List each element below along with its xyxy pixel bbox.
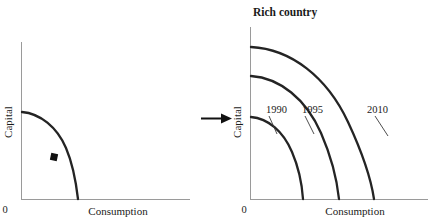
- right-x-axis-label: Consumption: [325, 205, 385, 217]
- ppf-curve-1995: [251, 76, 339, 199]
- left-panel: Capital Consumption 0: [2, 42, 190, 217]
- year-label-2010: 2010: [367, 104, 388, 115]
- left-y-axis-label: Capital: [2, 106, 14, 138]
- year-label-1995: 1995: [302, 104, 323, 115]
- transition-arrow-icon: [201, 114, 232, 124]
- left-x-axis-label: Consumption: [88, 205, 148, 217]
- right-y-axis-label: Capital: [231, 106, 243, 138]
- chosen-point-marker: [50, 153, 58, 161]
- ppf-curve-1990: [251, 117, 303, 199]
- year-label-1990: 1990: [266, 104, 287, 115]
- leader-line-2010: [375, 116, 388, 136]
- panel-title: Rich country: [253, 6, 317, 19]
- right-panel: Rich country 1990 1995 2010 Capital Cons…: [231, 6, 428, 217]
- right-origin-label: 0: [241, 204, 246, 215]
- figure-root: Capital Consumption 0 Rich country 19: [0, 0, 440, 222]
- left-origin-label: 0: [2, 204, 7, 215]
- ppf-shift-figure: Capital Consumption 0 Rich country 19: [0, 0, 440, 222]
- left-ppf-curve: [22, 112, 78, 199]
